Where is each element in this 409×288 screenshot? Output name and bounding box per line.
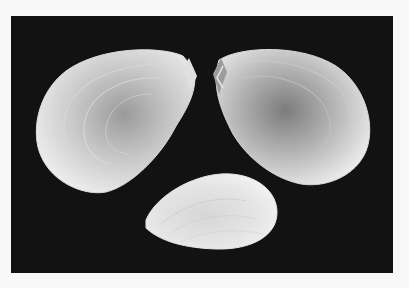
bottom-shell	[146, 174, 277, 249]
shell-photograph	[11, 16, 393, 273]
left-shell	[36, 50, 197, 193]
right-shell	[213, 49, 370, 184]
